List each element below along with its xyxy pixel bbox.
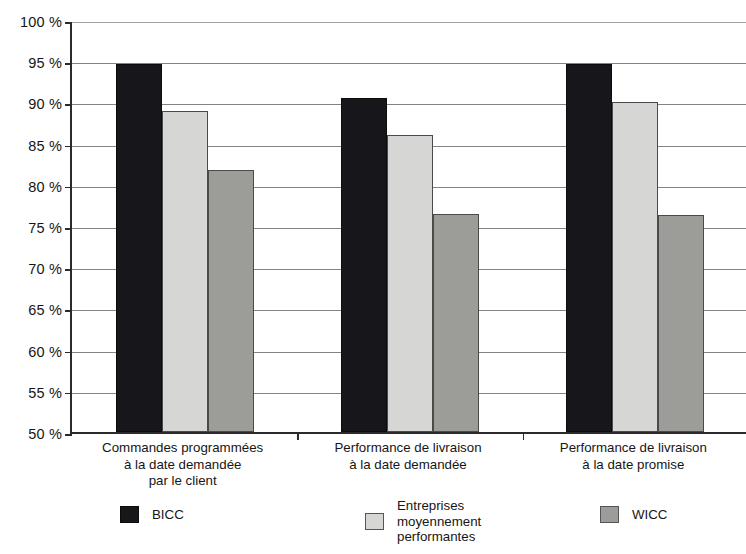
legend-item: Entreprisesmoyennementperformantes <box>365 498 481 545</box>
bar <box>162 111 208 432</box>
legend-label: BICC <box>152 507 184 523</box>
bar <box>566 64 612 432</box>
bar-chart: 100 %95 %90 %85 %80 %75 %70 %65 %60 %55 … <box>0 0 746 554</box>
legend-color-swatch <box>365 513 384 530</box>
y-axis-tick <box>65 269 72 271</box>
y-axis-tick <box>65 104 72 106</box>
y-axis-tick <box>65 310 72 312</box>
y-axis-tick-label: 65 % <box>0 302 62 318</box>
plot-area <box>70 22 746 434</box>
y-axis-tick <box>65 187 72 189</box>
y-axis-tick-label: 70 % <box>0 261 62 277</box>
legend-item: BICC <box>120 506 184 523</box>
y-axis-tick <box>65 228 72 230</box>
y-axis-tick-label: 85 % <box>0 138 62 154</box>
y-axis-tick-label: 60 % <box>0 344 62 360</box>
bar <box>208 170 254 432</box>
bar <box>116 64 162 432</box>
y-axis-tick <box>65 63 72 65</box>
x-axis-group-tick <box>523 432 525 440</box>
x-axis-group-tick <box>297 432 299 440</box>
legend-label: Entreprisesmoyennementperformantes <box>397 498 481 545</box>
y-axis-tick-label: 75 % <box>0 220 62 236</box>
y-axis-tick-label: 95 % <box>0 55 62 71</box>
bar <box>387 135 433 432</box>
legend-color-swatch <box>600 506 619 523</box>
bar <box>658 215 704 432</box>
y-axis-tick-label: 80 % <box>0 179 62 195</box>
y-axis-tick-label: 55 % <box>0 385 62 401</box>
y-axis-tick-label: 100 % <box>0 14 62 30</box>
chart-legend: BICCEntreprisesmoyennementperformantesWI… <box>0 498 746 554</box>
legend-color-swatch <box>120 506 139 523</box>
y-axis-tick <box>65 146 72 148</box>
y-axis-labels: 100 %95 %90 %85 %80 %75 %70 %65 %60 %55 … <box>0 0 62 440</box>
y-axis-tick <box>65 22 72 24</box>
y-axis-tick <box>65 352 72 354</box>
legend-item: WICC <box>600 506 667 523</box>
y-axis-tick <box>65 393 72 395</box>
y-axis-tick-label: 50 % <box>0 426 62 442</box>
bar <box>433 214 479 432</box>
bar <box>341 98 387 432</box>
legend-label: WICC <box>632 507 667 523</box>
category-label: Performance de livraisonà la date demand… <box>295 440 520 473</box>
y-axis-tick-label: 90 % <box>0 96 62 112</box>
category-labels: Commandes programméesà la date demandéep… <box>70 440 746 496</box>
bars-layer <box>72 22 746 432</box>
y-axis-tick <box>65 434 72 436</box>
category-label: Commandes programméesà la date demandéep… <box>70 440 295 490</box>
bar <box>612 102 658 432</box>
category-label: Performance de livraisonà la date promis… <box>521 440 746 473</box>
